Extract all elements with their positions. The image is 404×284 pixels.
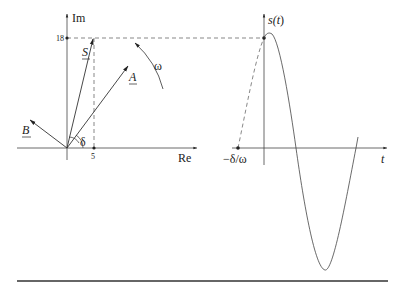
real-tick-label: 5 [91, 152, 95, 161]
phase-start-dot [236, 146, 240, 150]
time-axis-label: t [381, 152, 385, 166]
phasor-b-label: B [22, 123, 30, 137]
omega-label: ω [154, 59, 162, 73]
phasor-s [67, 39, 93, 148]
delta-angle-arc-outer [69, 137, 79, 143]
real-axis-label: Re [178, 151, 191, 165]
phasor-diagram: Re Im 18 5 S A B δ ω [17, 11, 264, 165]
signal-axis-label-suffix: ) [280, 13, 284, 27]
phase-shift-label: −δ/ω [223, 152, 247, 166]
signal-dashed-extension [238, 38, 264, 148]
imag-tick-dot [65, 36, 68, 39]
phasor-b [30, 120, 67, 148]
phasor-a-label: A [128, 70, 137, 84]
signal-curve [264, 33, 358, 270]
real-tick-dot [92, 146, 95, 149]
phasor-s-label: S [82, 45, 88, 59]
imag-axis-label: Im [72, 11, 86, 25]
delta-label: δ [80, 135, 86, 149]
signal-axis-label: s(t) [268, 13, 284, 27]
imag-tick-label: 18 [56, 34, 64, 43]
diagram-canvas: Re Im 18 5 S A B δ ω [0, 0, 404, 284]
phasor-a [67, 66, 128, 148]
time-plot: s(t) t −δ/ω [223, 13, 387, 270]
